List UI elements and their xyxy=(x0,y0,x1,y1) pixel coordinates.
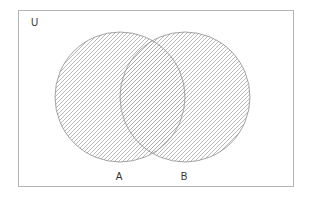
set-a-label: A xyxy=(116,171,123,182)
set-b-label: B xyxy=(181,171,188,182)
universe-label: U xyxy=(31,17,38,28)
venn-diagram: U A B xyxy=(0,0,309,198)
